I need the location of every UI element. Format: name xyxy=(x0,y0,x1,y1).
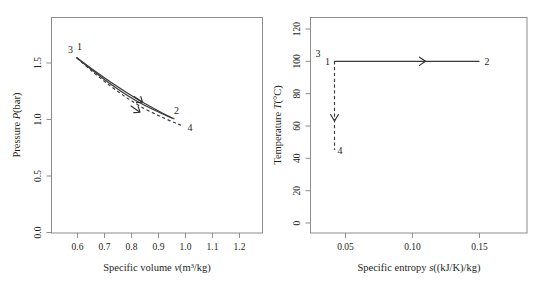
left-x-tick-label: 1.1 xyxy=(207,242,219,252)
right-point-label-3: 3 xyxy=(316,48,321,59)
left-y-axis-title: Pressure P(bar) xyxy=(11,92,23,158)
left-x-tick-labels: 0.6 0.7 0.8 0.9 1.0 1.1 1.2 xyxy=(72,242,246,252)
right-y-tick-label: 0 xyxy=(292,220,302,225)
right-point-label-4: 4 xyxy=(338,145,343,156)
left-arrow-3-4-icon xyxy=(131,106,140,113)
right-y-tick-label: 40 xyxy=(292,153,302,163)
left-plot-frame xyxy=(52,18,263,234)
left-x-tick-label: 0.7 xyxy=(99,242,111,252)
right-x-tick-label: 0.10 xyxy=(404,242,421,252)
right-y-tick-label: 120 xyxy=(292,22,302,37)
right-point-label-2: 2 xyxy=(485,56,490,67)
left-point-label-1: 1 xyxy=(77,41,82,52)
left-curve-1-2 xyxy=(77,58,174,119)
left-point-label-4: 4 xyxy=(188,122,193,133)
left-y-tick-label: 0.0 xyxy=(33,226,43,238)
thermodynamic-figure: 0.6 0.7 0.8 0.9 1.0 1.1 1.2 0.0 0.5 1.0 … xyxy=(0,0,548,292)
left-y-tick-label: 1.0 xyxy=(33,113,43,125)
right-x-tick-label: 0.15 xyxy=(471,242,488,252)
left-point-label-2: 2 xyxy=(174,105,179,116)
right-plot-frame xyxy=(311,18,528,234)
right-y-tick-label: 80 xyxy=(292,89,302,99)
right-point-label-1: 1 xyxy=(325,56,330,67)
right-y-tick-label: 60 xyxy=(292,121,302,131)
left-x-tick-label: 1.0 xyxy=(180,242,192,252)
left-x-tick-label: 0.6 xyxy=(72,242,84,252)
left-x-ticks xyxy=(78,233,240,238)
right-x-axis-title: Specific entropy s((kJ/K)/kg) xyxy=(357,262,481,274)
right-x-ticks xyxy=(346,233,480,238)
left-y-tick-label: 0.5 xyxy=(33,170,43,182)
right-x-tick-label: 0.05 xyxy=(337,242,354,252)
left-x-tick-label: 1.2 xyxy=(234,242,246,252)
right-y-ticks xyxy=(306,29,311,223)
left-curve-1-2-stroke xyxy=(77,58,169,117)
right-x-tick-labels: 0.05 0.10 0.15 xyxy=(337,242,488,252)
right-y-axis-title: Temperature T(°C) xyxy=(272,85,284,165)
left-x-tick-label: 0.8 xyxy=(126,242,138,252)
left-y-tick-label: 1.5 xyxy=(33,57,43,69)
right-y-tick-labels: 0 20 40 60 80 100 120 xyxy=(292,22,302,226)
left-y-tick-labels: 0.0 0.5 1.0 1.5 xyxy=(33,57,43,239)
right-panel-ts-diagram: 0.05 0.10 0.15 0 20 40 60 80 100 xyxy=(272,18,527,275)
left-panel-pv-diagram: 0.6 0.7 0.8 0.9 1.0 1.1 1.2 0.0 0.5 1.0 … xyxy=(11,18,263,275)
figure-canvas: 0.6 0.7 0.8 0.9 1.0 1.1 1.2 0.0 0.5 1.0 … xyxy=(0,0,548,292)
left-x-axis-title: Specific volume v(m³/kg) xyxy=(103,262,211,274)
right-y-tick-label: 20 xyxy=(292,186,302,196)
left-x-tick-label: 0.9 xyxy=(153,242,165,252)
left-y-ticks xyxy=(47,63,52,233)
left-point-label-3: 3 xyxy=(68,44,73,55)
right-y-tick-label: 100 xyxy=(292,54,302,69)
